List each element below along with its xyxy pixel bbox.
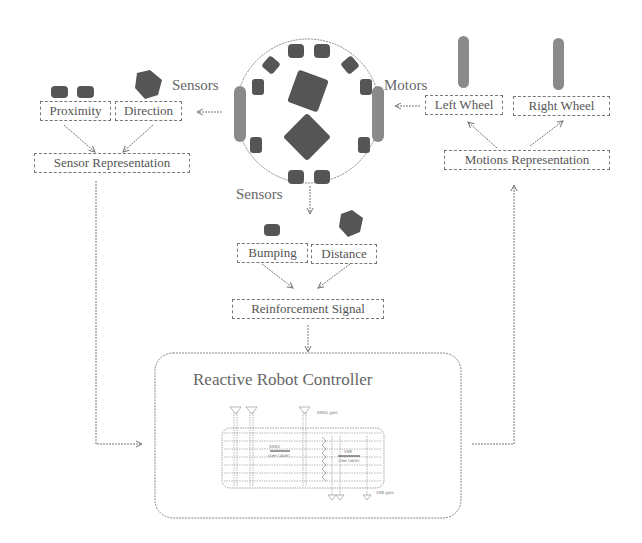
- circuit-label-right-block: VSB: [344, 449, 352, 454]
- distance-sensor-icon: [339, 210, 363, 237]
- proximity-sensor-icon: [51, 86, 68, 98]
- sensors-label: Sensors: [172, 77, 219, 94]
- arrow-direction: [123, 125, 153, 152]
- arrow-to-right-wheel: [530, 121, 563, 146]
- circuit-label-vsb-gain: VSB gain: [376, 490, 394, 495]
- sensors-bottom-label: Sensors: [236, 186, 283, 203]
- bumping-box[interactable]: Bumping: [237, 243, 308, 263]
- circuit-label-right-block-sub: (see table): [338, 458, 360, 463]
- arrow-distance: [318, 264, 350, 288]
- arrow-bumping: [262, 264, 293, 288]
- robot-body-icon: [234, 39, 384, 184]
- controller-title: Reactive Robot Controller: [193, 370, 372, 390]
- arrow-to-left-wheel: [468, 122, 497, 148]
- bumping-sensor-icon: [264, 224, 280, 236]
- sensor-representation-box[interactable]: Sensor Representation: [34, 153, 190, 173]
- diagram-canvas: [0, 0, 642, 543]
- reinforcement-signal-box[interactable]: Reinforcement Signal: [232, 299, 384, 319]
- circuit-label-left-block-sub: (see table): [268, 453, 290, 458]
- right-wheel-icon: [553, 38, 564, 90]
- circuit-label-asso-gain: ASSO gain: [317, 410, 338, 415]
- direction-sensor-icon: [135, 70, 162, 99]
- right-wheel-box[interactable]: Right Wheel: [513, 96, 610, 116]
- arrow-controller-to-motions: [472, 185, 514, 444]
- circuit-diagram: [222, 407, 384, 500]
- proximity-sensor-icon: [77, 86, 94, 98]
- motors-label: Motors: [384, 77, 427, 94]
- arrow-sensor-rep-to-controller: [96, 181, 142, 444]
- arrow-proximity: [64, 125, 95, 152]
- left-wheel-icon: [458, 36, 469, 88]
- left-wheel-box[interactable]: Left Wheel: [425, 95, 503, 115]
- distance-box[interactable]: Distance: [311, 244, 377, 264]
- motions-representation-box[interactable]: Motions Representation: [444, 150, 610, 170]
- direction-box[interactable]: Direction: [115, 101, 182, 121]
- circuit-label-left-block: ASSO: [269, 444, 280, 449]
- proximity-box[interactable]: Proximity: [40, 101, 111, 121]
